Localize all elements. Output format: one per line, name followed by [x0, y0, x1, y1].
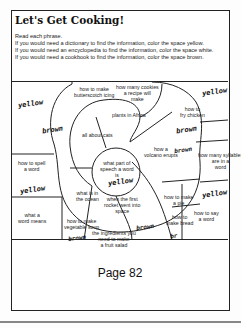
space-make-bread[interactable]: how tomake bread [166, 214, 193, 226]
space-plants-africa[interactable]: plants in Africa [112, 112, 146, 118]
space-make-pie[interactable]: how to makea pie [164, 194, 193, 206]
space-first-rocket[interactable]: when the firstrocket went intospace [104, 196, 140, 214]
instructions: Read each phrase. If you would need a di… [15, 33, 227, 61]
worksheet-page: Let's Get Cooking! Read each phrase. If … [11, 10, 230, 311]
space-word-means[interactable]: what aword means [18, 212, 46, 224]
worksheet-title: Let's Get Cooking! [15, 14, 124, 26]
space-say-word[interactable]: how to saya word [194, 210, 219, 222]
instruction-line: If you would need an encyclopedia to fin… [15, 47, 227, 54]
space-butterscotch-icing[interactable]: how to makebutterscotch icing [74, 86, 114, 98]
next-page-edge [0, 321, 241, 323]
color-puzzle: how to makebutterscotch icing how many c… [12, 81, 228, 240]
page-footer: Page 82 [12, 239, 228, 310]
space-spell-word[interactable]: how to spella word [18, 160, 45, 172]
instruction-line: If you would need a dictionary to find t… [15, 40, 227, 47]
space-part-of-speech[interactable]: what part ofspeech a wordis [100, 160, 134, 178]
page-number: Page 82 [12, 266, 228, 280]
instruction-line: Read each phrase. [15, 33, 227, 40]
instruction-line: If you would need a cookbook to find the… [15, 54, 227, 61]
space-all-about-cats[interactable]: all about cats [82, 132, 113, 138]
space-syllables[interactable]: how many syllablesare in aword [198, 152, 241, 170]
space-fry-chicken[interactable]: how tofry chicken [180, 106, 205, 118]
space-in-the-ocean[interactable]: what is inthe ocean [76, 190, 99, 202]
space-vegetable-soup[interactable]: how to makevegetable soup [64, 218, 99, 230]
space-cookies-recipe[interactable]: how many cookiesa recipe willmake [116, 84, 159, 102]
